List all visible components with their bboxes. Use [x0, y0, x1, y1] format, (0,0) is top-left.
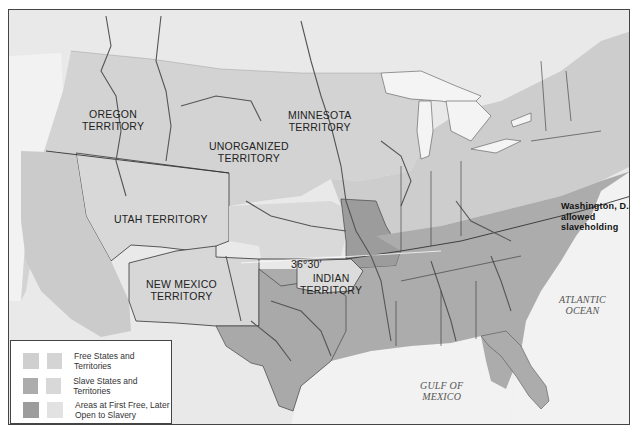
legend-label-open-line2: Open to Slavery — [75, 410, 169, 420]
atlantic-ocean-label: ATLANTIC OCEAN — [559, 294, 606, 316]
legend-item-free: Free States and Territories — [23, 351, 171, 371]
minnesota-territory-label: MINNESOTA TERRITORY — [288, 109, 351, 133]
utah-label-text: UTAH TERRITORY — [114, 213, 208, 225]
map-legend: Free States and Territories Slave States… — [10, 340, 172, 424]
dc-note-line3: slaveholding — [561, 222, 630, 233]
oregon-label-line1: OREGON — [82, 108, 144, 120]
kansas-nebraska-area — [229, 201, 346, 259]
legend-swatch-free-b — [47, 353, 63, 369]
legend-swatch-open-b — [47, 402, 63, 418]
gulf-label-line2: MEXICO — [420, 391, 463, 402]
unorganized-label-line2: TERRITORY — [209, 152, 289, 164]
washington-dc-note: Washington, D.C., allowed slaveholding — [561, 201, 630, 233]
legend-label-open-line1: Areas at First Free, Later — [75, 400, 169, 410]
legend-item-slave: Slave States and Territories — [23, 376, 171, 396]
indian-territory-label: INDIAN TERRITORY — [300, 272, 362, 296]
latitude-label-text: 36°30′ — [291, 258, 322, 270]
indian-label-line2: TERRITORY — [300, 284, 362, 296]
oregon-label-line2: TERRITORY — [82, 120, 144, 132]
legend-swatch-slave-a — [23, 378, 38, 394]
legend-label-free: Free States and Territories — [74, 351, 171, 371]
indian-label-line1: INDIAN — [300, 272, 362, 284]
new-mexico-label-line2: TERRITORY — [146, 290, 217, 302]
utah-territory-label: UTAH TERRITORY — [114, 213, 208, 225]
legend-swatch-slave-b — [46, 378, 61, 394]
new-mexico-label-line1: NEW MEXICO — [146, 278, 217, 290]
atlantic-label-line2: OCEAN — [559, 305, 606, 316]
legend-item-first-free-later-slave: Areas at First Free, Later Open to Slave… — [23, 400, 169, 420]
atlantic-label-line1: ATLANTIC — [559, 294, 606, 305]
minnesota-label-line2: TERRITORY — [288, 121, 351, 133]
unorganized-label-line1: UNORGANIZED — [209, 140, 289, 152]
gulf-label-line1: GULF OF — [420, 380, 463, 391]
oregon-territory-label: OREGON TERRITORY — [82, 108, 144, 132]
minnesota-label-line1: MINNESOTA — [288, 109, 351, 121]
legend-swatch-free-a — [23, 353, 39, 369]
latitude-36-30-label: 36°30′ — [291, 258, 322, 270]
legend-swatch-open-a — [23, 402, 39, 418]
new-mexico-territory-label: NEW MEXICO TERRITORY — [146, 278, 217, 302]
dc-note-line1: Washington, D.C., — [561, 201, 630, 212]
legend-label-open: Areas at First Free, Later Open to Slave… — [75, 400, 169, 420]
unorganized-territory-label: UNORGANIZED TERRITORY — [209, 140, 289, 164]
gulf-of-mexico-label: GULF OF MEXICO — [420, 380, 463, 402]
dc-note-line2: allowed — [561, 212, 630, 223]
legend-label-slave: Slave States and Territories — [73, 376, 171, 396]
